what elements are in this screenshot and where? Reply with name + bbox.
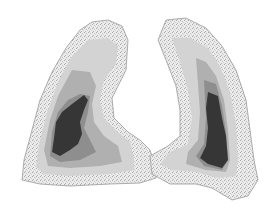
right-lung [150, 18, 258, 200]
left-lung [22, 20, 156, 186]
lung-scan-image [0, 0, 269, 213]
